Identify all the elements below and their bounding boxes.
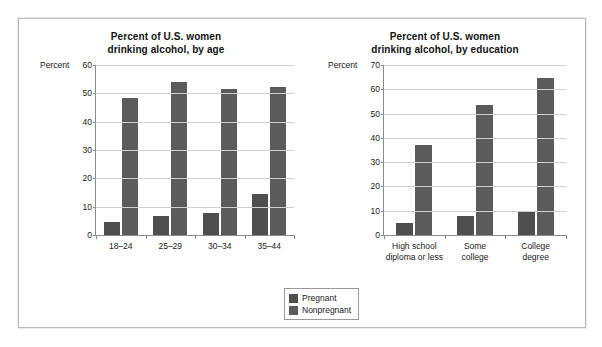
y-tick-label-20: 20: [83, 173, 92, 183]
y-tick-mark-30: [381, 162, 384, 163]
bar-pregnant: [396, 223, 413, 235]
figure-frame: Percent of U.S. women drinking alcohol, …: [18, 18, 586, 328]
y-tick-mark-60: [93, 65, 96, 66]
gridline-40: [96, 122, 294, 123]
plot-area-by-age: 010203040506018–2425–2930–3435–44: [95, 65, 294, 236]
legend: Pregnant Nonpregnant: [284, 288, 359, 320]
x-tick-mark: [445, 235, 446, 239]
y-tick-mark-50: [381, 114, 384, 115]
gridline-50: [384, 114, 566, 115]
bar-nonpregnant: [122, 98, 138, 235]
bars-layer-by-education: [384, 65, 566, 235]
x-tick-label: 25–29: [158, 241, 182, 252]
x-tick-label: 18–24: [109, 241, 133, 252]
y-tick-label-30: 30: [371, 157, 380, 167]
bar-pregnant: [104, 222, 120, 235]
plot-area-by-education: 010203040506070High school diploma or le…: [383, 65, 566, 236]
y-tick-mark-50: [93, 93, 96, 94]
bar-group: [445, 65, 506, 235]
y-tick-label-30: 30: [83, 145, 92, 155]
legend-swatch-nonpregnant: [289, 306, 298, 315]
y-tick-label-70: 70: [371, 60, 380, 70]
x-tick-mark: [566, 235, 567, 239]
y-axis-unit-label-by-age: Percent: [40, 60, 69, 70]
y-tick-label-10: 10: [83, 202, 92, 212]
bar-nonpregnant: [171, 82, 187, 235]
y-tick-label-0: 0: [375, 230, 380, 240]
y-tick-label-60: 60: [371, 84, 380, 94]
y-tick-label-0: 0: [87, 230, 92, 240]
bar-nonpregnant: [415, 145, 432, 235]
gridline-30: [96, 150, 294, 151]
y-tick-mark-60: [381, 89, 384, 90]
gridline-50: [96, 93, 294, 94]
gridline-20: [96, 178, 294, 179]
gridline-10: [384, 211, 566, 212]
legend-swatch-pregnant: [289, 294, 298, 303]
gridline-30: [384, 162, 566, 163]
x-tick-mark: [146, 235, 147, 239]
bar-nonpregnant: [221, 89, 237, 235]
chart-title-by-age: Percent of U.S. women drinking alcohol, …: [27, 25, 305, 56]
gridline-60: [384, 89, 566, 90]
y-tick-mark-30: [93, 150, 96, 151]
plot-wrap-by-age: Percent 010203040506018–2425–2930–3435–4…: [27, 61, 305, 276]
y-tick-label-20: 20: [371, 181, 380, 191]
legend-item-nonpregnant: Nonpregnant: [289, 304, 351, 316]
chart-by-age: Percent of U.S. women drinking alcohol, …: [27, 25, 305, 275]
y-tick-label-50: 50: [371, 109, 380, 119]
y-tick-label-50: 50: [83, 88, 92, 98]
gridline-10: [96, 207, 294, 208]
y-tick-mark-40: [381, 138, 384, 139]
y-tick-mark-10: [381, 211, 384, 212]
gridline-40: [384, 138, 566, 139]
x-tick-mark: [96, 235, 97, 239]
x-tick-mark: [294, 235, 295, 239]
x-tick-mark: [505, 235, 506, 239]
y-tick-mark-20: [93, 178, 96, 179]
bar-pregnant: [203, 213, 219, 235]
plot-wrap-by-education: Percent 010203040506070High school diplo…: [311, 61, 579, 276]
bar-pregnant: [252, 194, 268, 235]
bar-nonpregnant: [270, 87, 286, 235]
x-tick-label: College degree: [521, 241, 550, 262]
x-tick-mark: [384, 235, 385, 239]
chart-title-by-education: Percent of U.S. women drinking alcohol, …: [311, 25, 579, 56]
x-tick-label: Some college: [462, 241, 489, 262]
y-axis-unit-label-by-education: Percent: [328, 60, 357, 70]
chart-by-education: Percent of U.S. women drinking alcohol, …: [311, 25, 579, 275]
bar-group: [384, 65, 445, 235]
gridline-70: [384, 65, 566, 66]
bar-nonpregnant: [476, 105, 493, 235]
y-tick-mark-70: [381, 65, 384, 66]
bar-group: [505, 65, 566, 235]
legend-label-pregnant: Pregnant: [302, 293, 337, 303]
gridline-20: [384, 186, 566, 187]
y-tick-label-40: 40: [83, 117, 92, 127]
x-tick-label: High school diploma or less: [386, 241, 443, 262]
y-tick-label-40: 40: [371, 133, 380, 143]
y-tick-mark-10: [93, 207, 96, 208]
x-tick-label: 35–44: [257, 241, 281, 252]
x-tick-mark: [245, 235, 246, 239]
gridline-0: [384, 235, 566, 236]
y-tick-mark-20: [381, 186, 384, 187]
y-tick-label-60: 60: [83, 60, 92, 70]
bar-pregnant: [153, 216, 169, 235]
legend-label-nonpregnant: Nonpregnant: [302, 305, 351, 315]
y-tick-label-10: 10: [371, 206, 380, 216]
y-tick-mark-40: [93, 122, 96, 123]
legend-item-pregnant: Pregnant: [289, 292, 351, 304]
bar-pregnant: [518, 211, 535, 235]
gridline-60: [96, 65, 294, 66]
x-tick-label: 30–34: [208, 241, 232, 252]
bar-pregnant: [457, 216, 474, 235]
x-tick-mark: [195, 235, 196, 239]
